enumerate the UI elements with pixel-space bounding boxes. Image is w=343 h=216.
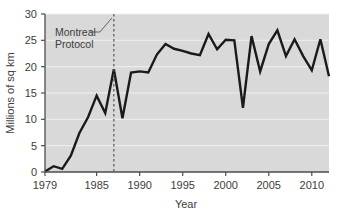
montreal-protocol-label-line1: Montreal bbox=[55, 26, 96, 38]
x-axis-tick-label: 1985 bbox=[84, 179, 108, 191]
y-axis-tick-label: 25 bbox=[25, 34, 37, 46]
x-axis-tick-label: 2000 bbox=[213, 179, 237, 191]
y-axis-tick-label: 0 bbox=[31, 166, 37, 178]
y-axis-tick-label: 30 bbox=[25, 8, 37, 20]
x-axis-tick-label: 2010 bbox=[300, 179, 324, 191]
y-axis-ticks: 051015202530 bbox=[25, 8, 45, 178]
x-axis-tick-label: 2005 bbox=[257, 179, 281, 191]
x-axis-tick-label: 1990 bbox=[127, 179, 151, 191]
x-axis-tick-label: 1995 bbox=[170, 179, 194, 191]
ozone-hole-area-chart: Montreal Protocol 051015202530 197919851… bbox=[0, 0, 343, 216]
y-axis-title: Millions of sq km bbox=[4, 52, 16, 133]
y-axis-tick-label: 15 bbox=[25, 87, 37, 99]
y-axis-tick-label: 5 bbox=[31, 140, 37, 152]
x-axis-ticks: 1979198519901995200020052010 bbox=[33, 172, 324, 191]
x-axis-tick-label: 1979 bbox=[33, 179, 57, 191]
montreal-protocol-label-line2: Protocol bbox=[55, 38, 94, 50]
x-axis-title: Year bbox=[175, 198, 198, 210]
chart-canvas: Montreal Protocol 051015202530 197919851… bbox=[0, 0, 343, 216]
y-axis-tick-label: 10 bbox=[25, 113, 37, 125]
y-axis-tick-label: 20 bbox=[25, 61, 37, 73]
